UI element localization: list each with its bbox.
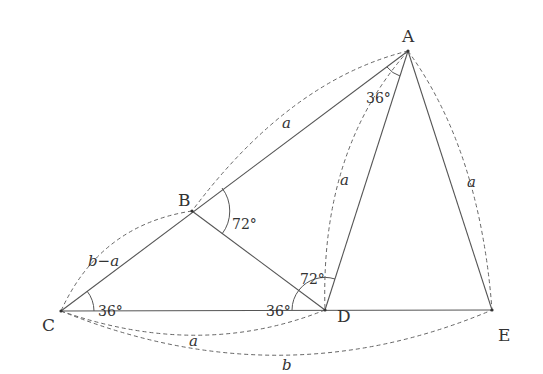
angle-label-ADB: 72°	[300, 271, 325, 287]
angle-arc-C	[87, 291, 94, 311]
length-label-CD: a	[189, 332, 198, 350]
point-label-A: A	[401, 26, 415, 46]
length-label-AE: a	[467, 173, 476, 191]
angle-arc-B	[222, 188, 230, 234]
segment-AE	[408, 51, 492, 310]
point-label-C: C	[42, 315, 55, 335]
geometry-diagram: A B C D E 36° 36° 72° 36° 72° a b−a a a …	[0, 0, 543, 374]
point-label-D: D	[337, 306, 351, 326]
point-label-E: E	[498, 325, 510, 345]
angle-arc-BDC	[292, 290, 299, 310]
angle-label-BDC: 36°	[266, 303, 291, 319]
point-label-B: B	[178, 190, 191, 210]
segment-AC	[61, 51, 408, 311]
diagram-canvas: A B C D E 36° 36° 72° 36° 72° a b−a a a …	[0, 0, 543, 374]
length-label-BC: b−a	[88, 252, 119, 270]
angle-label-A: 36°	[366, 90, 391, 106]
length-label-CE: b	[282, 356, 292, 374]
angle-label-C: 36°	[98, 303, 123, 319]
length-label-AB: a	[282, 114, 291, 132]
length-label-AD: a	[340, 171, 349, 189]
angle-label-B: 72°	[232, 216, 257, 232]
segment-BD	[192, 211, 325, 310]
